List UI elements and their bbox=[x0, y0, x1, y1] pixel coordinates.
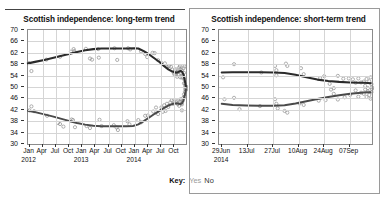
gridline-horizontal bbox=[28, 121, 186, 122]
y-tick-mark bbox=[21, 63, 24, 64]
panel-long-term-trend: Scottish independence: long-term trend 3… bbox=[0, 0, 190, 198]
gridline-vertical bbox=[56, 30, 57, 144]
x-tick-label: Jan bbox=[23, 147, 34, 154]
gridline-vertical bbox=[299, 30, 300, 144]
data-point bbox=[97, 56, 100, 59]
trend-line-no bbox=[222, 72, 371, 83]
y-tick-mark bbox=[21, 29, 24, 30]
y-tick-label: 62 bbox=[201, 48, 209, 55]
y-tick-label: 38 bbox=[201, 117, 209, 124]
y-tick-label: 70 bbox=[201, 26, 209, 33]
plot-area-long-term bbox=[27, 29, 187, 145]
data-point bbox=[30, 105, 33, 108]
gridline-vertical bbox=[109, 30, 110, 144]
y-tick-label: 30 bbox=[201, 140, 209, 147]
x-tick-mark bbox=[323, 144, 324, 147]
x-tick-mark bbox=[272, 144, 273, 147]
y-tick-label: 34 bbox=[201, 128, 209, 135]
plot-area-short-term bbox=[218, 29, 373, 145]
chart-figure: Scottish independence: long-term trend 3… bbox=[0, 0, 383, 198]
data-point bbox=[342, 77, 345, 80]
y-tick-mark bbox=[212, 132, 215, 133]
y-tick-label: 66 bbox=[10, 37, 18, 44]
panel-short-term-trend: Scottish independence: short-term trend … bbox=[190, 0, 383, 198]
x-axis-year-label: 2014 bbox=[127, 156, 142, 163]
x-tick-label: Oct bbox=[116, 147, 126, 154]
chart-title-long-term: Scottish independence: long-term trend bbox=[0, 15, 194, 24]
x-tick-mark bbox=[108, 144, 109, 147]
x-tick-mark bbox=[68, 144, 69, 147]
y-tick-label: 38 bbox=[10, 117, 18, 124]
x-tick-label: 29Jun bbox=[212, 147, 230, 154]
gridline-horizontal bbox=[28, 87, 186, 88]
gridline-horizontal bbox=[28, 110, 186, 111]
x-axis-year-label: 2012 bbox=[21, 156, 36, 163]
data-point bbox=[328, 82, 331, 85]
x-tick-label: Apr bbox=[142, 147, 152, 154]
gridline-vertical bbox=[95, 30, 96, 144]
gridline-vertical bbox=[135, 30, 136, 144]
data-point bbox=[302, 103, 305, 106]
legend-entry-no: No bbox=[204, 176, 213, 185]
x-tick-mark bbox=[147, 144, 148, 147]
x-tick-mark bbox=[298, 144, 299, 147]
legend-key: Key:YesNo bbox=[0, 176, 383, 185]
x-tick-label: Jul bbox=[51, 147, 59, 154]
gridline-horizontal bbox=[28, 41, 186, 42]
x-axis-short-term: 29Jun201413Jul27Jul10Aug24Aug07Sep bbox=[218, 147, 373, 171]
x-tick-label: 13Jul bbox=[239, 147, 255, 154]
y-tick-mark bbox=[21, 97, 24, 98]
gridline-horizontal bbox=[28, 98, 186, 99]
x-axis-year-label: 2014 bbox=[214, 156, 229, 163]
gridline-vertical bbox=[148, 30, 149, 144]
y-tick-mark bbox=[212, 75, 215, 76]
y-tick-label: 58 bbox=[10, 60, 18, 67]
x-tick-mark bbox=[81, 144, 82, 147]
y-tick-mark bbox=[21, 109, 24, 110]
y-tick-label: 54 bbox=[10, 71, 18, 78]
data-point bbox=[286, 111, 289, 114]
gridline-vertical bbox=[43, 30, 44, 144]
data-point bbox=[357, 77, 360, 80]
y-tick-label: 70 bbox=[10, 26, 18, 33]
y-tick-label: 34 bbox=[10, 128, 18, 135]
y-axis-long-term: 3034384246505458626670 bbox=[0, 29, 24, 145]
y-tick-mark bbox=[212, 29, 215, 30]
data-point bbox=[73, 126, 76, 129]
y-tick-mark bbox=[21, 86, 24, 87]
x-tick-mark bbox=[247, 144, 248, 147]
x-tick-mark bbox=[173, 144, 174, 147]
data-point bbox=[116, 128, 119, 131]
gridline-horizontal bbox=[28, 53, 186, 54]
y-tick-mark bbox=[21, 75, 24, 76]
data-point bbox=[275, 69, 278, 72]
y-tick-label: 54 bbox=[201, 71, 209, 78]
y-tick-mark bbox=[212, 86, 215, 87]
gridline-vertical bbox=[350, 30, 351, 144]
y-tick-label: 30 bbox=[10, 140, 18, 147]
x-tick-label: Jul bbox=[156, 147, 164, 154]
y-tick-mark bbox=[21, 40, 24, 41]
x-tick-label: Jan bbox=[76, 147, 87, 154]
y-tick-label: 58 bbox=[201, 60, 209, 67]
data-point bbox=[88, 126, 91, 129]
y-tick-label: 62 bbox=[10, 48, 18, 55]
x-tick-label: 24Aug bbox=[314, 147, 333, 154]
trend-line-no bbox=[28, 48, 186, 86]
y-tick-mark bbox=[212, 143, 215, 144]
y-tick-label: 66 bbox=[201, 37, 209, 44]
gridline-horizontal bbox=[28, 133, 186, 134]
x-tick-mark bbox=[42, 144, 43, 147]
y-tick-mark bbox=[212, 97, 215, 98]
x-tick-mark bbox=[134, 144, 135, 147]
gridline-vertical bbox=[248, 30, 249, 144]
x-tick-label: Oct bbox=[63, 147, 73, 154]
y-tick-label: 46 bbox=[10, 94, 18, 101]
gridline-horizontal bbox=[28, 64, 186, 65]
data-point bbox=[365, 77, 368, 80]
y-tick-mark bbox=[212, 52, 215, 53]
gridline-vertical bbox=[82, 30, 83, 144]
y-tick-mark bbox=[21, 143, 24, 144]
x-tick-mark bbox=[55, 144, 56, 147]
x-tick-mark bbox=[221, 144, 222, 147]
